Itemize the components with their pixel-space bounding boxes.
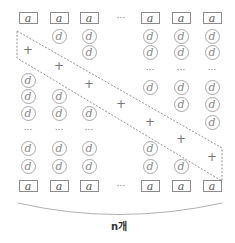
diagram-overlay [0, 0, 235, 243]
diagonal-band-outline [17, 31, 222, 181]
bracket-arc [18, 203, 222, 215]
count-label: n개 [111, 218, 127, 233]
